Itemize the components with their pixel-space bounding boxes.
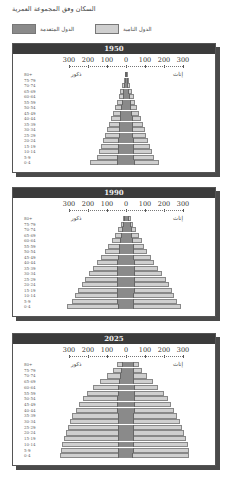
age-group-label: 45-49: [24, 111, 36, 116]
age-group-label: 35-39: [24, 413, 36, 418]
bar-developed: [117, 260, 134, 265]
age-group-label: 80+: [24, 216, 32, 221]
bar-developed: [124, 83, 128, 88]
age-group-label: 45-49: [24, 255, 36, 260]
age-group-label: 75-79: [24, 78, 36, 83]
bar-developed: [125, 78, 128, 83]
x-axis: [69, 66, 183, 67]
legend-label-developing: الدول النامية: [123, 26, 152, 32]
panel-year-header: 2025: [13, 334, 215, 344]
age-group-label: 15-19: [24, 436, 36, 441]
bar-developed: [119, 249, 134, 254]
males-label: ذكور: [71, 361, 82, 367]
bar-developed: [118, 448, 133, 453]
bar-developed: [117, 396, 135, 401]
axis-tick-label: 0: [124, 346, 128, 354]
axis-tick-label: 100: [101, 200, 113, 208]
axis-tick-label: 100: [101, 346, 113, 354]
axis-tick-label: 100: [139, 56, 151, 64]
bar-developed: [118, 453, 133, 458]
age-group-label: 20-24: [24, 138, 36, 143]
bar-developed: [117, 160, 135, 165]
axis-tick-label: 300: [177, 200, 189, 208]
bar-developed: [123, 222, 130, 227]
bar-developed: [118, 425, 134, 430]
age-group-label: 80+: [24, 72, 32, 77]
age-group-label: 35-39: [24, 122, 36, 127]
bar-developed: [122, 362, 133, 367]
bar-developed: [118, 391, 135, 396]
bar-developed: [117, 408, 134, 413]
legend-label-developed: الدول المتقدمة: [40, 26, 74, 32]
bar-developed: [119, 244, 133, 249]
age-group-label: 25-29: [24, 133, 36, 138]
bar-developed: [118, 144, 134, 149]
axis-tick-label: 200: [82, 346, 94, 354]
age-group-label: 30-34: [24, 271, 36, 276]
age-group-label: 60-64: [24, 94, 36, 99]
axis-tick: [183, 355, 184, 358]
age-group-label: 10-14: [24, 442, 36, 447]
age-group-label: 20-24: [24, 430, 36, 435]
legend-swatch-developing: [95, 24, 119, 34]
age-group-label: 75-79: [24, 368, 36, 373]
bar-developed: [121, 105, 131, 110]
age-group-label: 75-79: [24, 222, 36, 227]
age-group-label: 30-34: [24, 127, 36, 132]
panel-year-header: 1990: [13, 188, 215, 198]
age-group-label: 70-74: [24, 83, 36, 88]
panel-frame: 19503002001000100200300ذكورإناث80+75-797…: [12, 43, 216, 173]
panel-frame: 19903002001000100200300ذكورإناث80+75-797…: [12, 187, 216, 317]
bar-developed: [118, 149, 134, 154]
axis-tick-label: 0: [124, 56, 128, 64]
bar-developed: [119, 127, 133, 132]
bar-developed: [117, 155, 134, 160]
age-group-label: 40-44: [24, 260, 36, 265]
legend: الدول المتقدمة الدول النامية: [12, 24, 212, 36]
bar-developed: [123, 89, 129, 94]
legend-item-developing: الدول النامية: [95, 24, 152, 34]
bar-developed: [121, 368, 134, 373]
axis-tick-label: 300: [63, 346, 75, 354]
bar-developed: [118, 436, 134, 441]
age-group-label: 55-59: [24, 100, 36, 105]
females-label: إناث: [173, 215, 183, 221]
bar-developed: [119, 379, 135, 384]
pyramid-panel-2025: 20253002001000100200300ذكورإناث80+75-797…: [12, 333, 216, 466]
age-group-label: 55-59: [24, 244, 36, 249]
age-group-label: 55-59: [24, 391, 36, 396]
bar-developed: [117, 277, 136, 282]
bar-developed: [118, 138, 133, 143]
bar-developed: [118, 413, 135, 418]
age-group-label: 65-69: [24, 89, 36, 94]
bar-developed: [122, 100, 131, 105]
age-group-label: 5-9: [24, 448, 30, 453]
pyramid-panel-1950: 19503002001000100200300ذكورإناث80+75-797…: [12, 43, 216, 173]
age-group-label: 40-44: [24, 116, 36, 121]
axis-tick-label: 0: [124, 200, 128, 208]
legend-item-developed: الدول المتقدمة: [12, 24, 74, 34]
age-group-label: 15-19: [24, 144, 36, 149]
age-group-label: 50-54: [24, 249, 36, 254]
bar-developed: [122, 227, 132, 232]
axis-tick-label: 200: [158, 200, 170, 208]
age-group-label: 70-74: [24, 227, 36, 232]
age-group-label: 30-34: [24, 419, 36, 424]
axis-tick-label: 200: [158, 56, 170, 64]
age-group-label: 65-69: [24, 233, 36, 238]
x-axis: [69, 210, 183, 211]
bar-developed: [121, 233, 132, 238]
bar-developed: [124, 216, 129, 221]
panel-frame: 20253002001000100200300ذكورإناث80+75-797…: [12, 333, 216, 466]
females-label: إناث: [173, 361, 183, 367]
age-group-label: 20-24: [24, 282, 36, 287]
bar-developed: [118, 255, 134, 260]
axis-tick-label: 300: [177, 346, 189, 354]
males-label: ذكور: [71, 71, 82, 77]
males-label: ذكور: [71, 215, 82, 221]
age-group-label: 5-9: [24, 155, 30, 160]
age-group-label: 50-54: [24, 396, 36, 401]
age-group-label: 0-4: [24, 160, 30, 165]
age-group-label: 80+: [24, 362, 32, 367]
axis-tick-label: 300: [63, 56, 75, 64]
